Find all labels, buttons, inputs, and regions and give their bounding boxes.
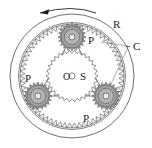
sun-center-label: O (63, 71, 70, 82)
planet-gear-bore (35, 93, 41, 99)
planet-label-bottom: P (83, 112, 89, 124)
sun-gear-label: S (80, 70, 86, 82)
ring-gear-label: R (113, 18, 121, 30)
diagram-canvas: R C S O P P P (0, 0, 152, 148)
carrier-label: C (133, 40, 140, 52)
planetary-gear-diagram: R C S O P P P (0, 0, 152, 148)
rotation-arrow (40, 9, 96, 15)
planet-gear-bore (69, 34, 75, 40)
planet-label-top: P (88, 34, 94, 46)
planet-label-left: P (25, 72, 31, 84)
planet-gear-bore (103, 93, 109, 99)
